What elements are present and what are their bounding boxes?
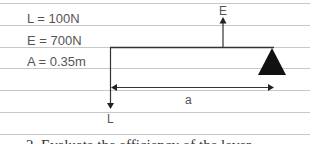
distance-arrow-right-icon [268,84,274,91]
load-label: L [107,113,114,125]
question-text: 2. Evaluate the efficiency of the lever [26,137,251,144]
fulcrum-triangle-icon [258,48,286,75]
lever-diagram-graphic [0,0,310,144]
distance-label: a [185,94,192,106]
load-arrow-icon [107,103,114,109]
effort-label: E [219,5,227,17]
distance-arrow-left-icon [111,84,117,91]
